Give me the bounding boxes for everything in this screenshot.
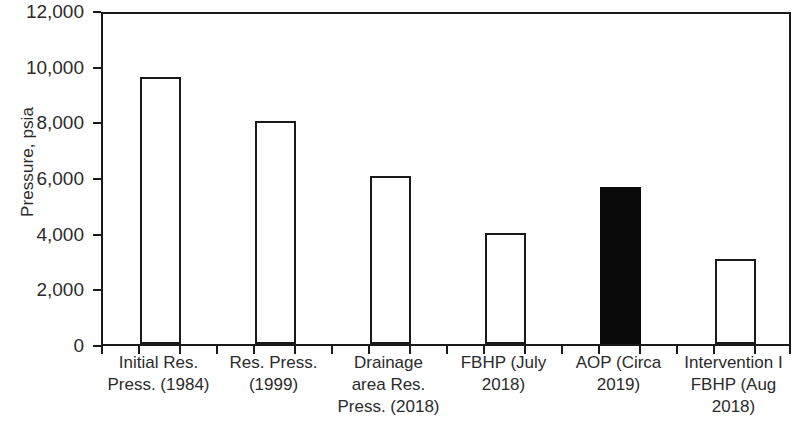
- x-axis-label-line: (1999): [216, 374, 331, 396]
- x-axis-label-line: Press. (1984): [101, 374, 216, 396]
- x-axis-label-1: Initial Res.Press. (1984): [101, 352, 216, 396]
- x-axis-label-3: Drainagearea Res.Press. (2018): [331, 352, 446, 418]
- x-axis-label-line: Res. Press.: [216, 352, 331, 374]
- y-axis-tick-marks: [93, 0, 101, 360]
- x-axis-label-line: Press. (2018): [331, 396, 446, 418]
- x-axis-label-line: Drainage: [331, 352, 446, 374]
- x-axis-label-line: 2018): [676, 396, 791, 418]
- bar-1: [140, 77, 181, 344]
- y-axis-tick-label: 10,000: [26, 58, 84, 77]
- x-axis-label-5: AOP (Circa2019): [561, 352, 676, 396]
- y-axis-tick-label: 4,000: [36, 225, 84, 244]
- x-axis-label-4: FBHP (July2018): [446, 352, 561, 396]
- x-axis-label-line: FBHP (Aug: [676, 374, 791, 396]
- y-axis-tick-mark: [93, 11, 101, 13]
- x-axis-label-line: AOP (Circa: [561, 352, 676, 374]
- x-axis-label-line: Intervention I: [676, 352, 791, 374]
- y-axis-tick-mark: [93, 67, 101, 69]
- y-axis-tick-mark: [93, 234, 101, 236]
- y-axis-tick-mark: [93, 345, 101, 347]
- x-axis-label-line: FBHP (July: [446, 352, 561, 374]
- x-axis-label-line: Initial Res.: [101, 352, 216, 374]
- bar-3: [370, 176, 411, 344]
- bar-chart-figure: Pressure, psia 02,0004,0006,0008,00010,0…: [0, 0, 796, 428]
- bar-2: [255, 121, 296, 344]
- x-axis-label-line: 2018): [446, 374, 561, 396]
- y-axis-tick-mark: [93, 289, 101, 291]
- x-axis-label-line: area Res.: [331, 374, 446, 396]
- y-axis-tick-labels: 02,0004,0006,0008,00010,00012,000: [0, 0, 92, 360]
- y-axis-tick-label: 12,000: [26, 2, 84, 21]
- y-axis-tick-label: 0: [73, 336, 84, 355]
- y-axis-tick-mark: [93, 178, 101, 180]
- x-axis-label-2: Res. Press.(1999): [216, 352, 331, 396]
- x-axis-label-line: 2019): [561, 374, 676, 396]
- y-axis-tick-label: 8,000: [36, 113, 84, 132]
- bar-5: [600, 187, 641, 344]
- y-axis-tick-mark: [93, 122, 101, 124]
- plot-area: [101, 12, 791, 346]
- x-axis-label-6: Intervention IFBHP (Aug2018): [676, 352, 791, 418]
- y-axis-tick-label: 2,000: [36, 280, 84, 299]
- y-axis-tick-label: 6,000: [36, 169, 84, 188]
- x-axis-category-labels: Initial Res.Press. (1984)Res. Press.(199…: [101, 352, 791, 428]
- bar-6: [715, 259, 756, 344]
- bar-4: [485, 233, 526, 344]
